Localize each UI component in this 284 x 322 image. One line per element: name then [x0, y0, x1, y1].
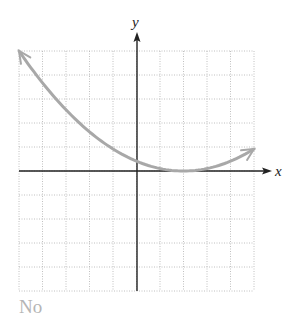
answer-text: No: [19, 296, 42, 318]
x-axis-label: x: [274, 163, 282, 179]
axes: x y: [19, 14, 282, 291]
coordinate-plane: x y: [0, 0, 284, 322]
y-axis-label: y: [130, 14, 139, 30]
